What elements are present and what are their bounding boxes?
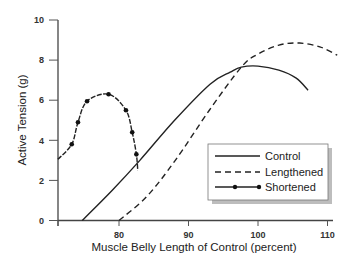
series-shortened-marker xyxy=(76,120,81,125)
legend-label-shortened: Shortened xyxy=(265,181,316,193)
chart-canvas: 0246810 8090100110 Active Tension (g) Mu… xyxy=(0,0,353,269)
legend-marker-dot xyxy=(257,185,261,189)
x-tick-label: 90 xyxy=(183,230,193,240)
series-shortened-marker xyxy=(106,92,111,97)
x-tick-label: 100 xyxy=(250,230,265,240)
x-axis-title: Muscle Belly Length of Control (percent) xyxy=(91,241,296,253)
y-ticks: 0246810 xyxy=(34,15,58,226)
legend: Control Lengthened Shortened xyxy=(208,144,332,204)
series-shortened-marker xyxy=(124,108,129,113)
legend-marker-dot xyxy=(233,185,237,189)
series-shortened-marker xyxy=(69,142,74,147)
y-tick-label: 2 xyxy=(39,176,44,186)
y-axis-title: Active Tension (g) xyxy=(16,74,28,165)
y-tick-label: 8 xyxy=(39,55,44,65)
axes: 0246810 8090100110 xyxy=(34,15,335,240)
x-ticks: 8090100110 xyxy=(58,221,335,241)
y-tick-label: 0 xyxy=(39,216,44,226)
series-shortened-marker xyxy=(85,99,90,104)
y-tick-label: 4 xyxy=(39,136,44,146)
y-tick-label: 10 xyxy=(34,15,44,25)
x-tick-label: 110 xyxy=(320,230,335,240)
series-shortened-marker xyxy=(130,130,135,135)
legend-label-lengthened: Lengthened xyxy=(265,166,323,178)
legend-label-control: Control xyxy=(265,150,300,162)
series-shortened-line xyxy=(58,94,138,171)
y-tick-label: 6 xyxy=(39,95,44,105)
x-tick-label: 80 xyxy=(114,230,124,240)
series-shortened-marker xyxy=(134,152,139,157)
